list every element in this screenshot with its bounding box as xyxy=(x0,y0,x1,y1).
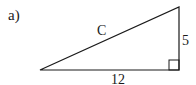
hypotenuse-label: C xyxy=(97,23,106,38)
horizontal-leg-label: 12 xyxy=(111,72,125,85)
right-triangle xyxy=(40,7,179,70)
vertical-leg-label: 5 xyxy=(182,33,189,48)
right-angle-marker xyxy=(169,60,179,70)
triangle-diagram: a) C 5 12 xyxy=(0,0,196,85)
figure-label: a) xyxy=(8,7,20,24)
